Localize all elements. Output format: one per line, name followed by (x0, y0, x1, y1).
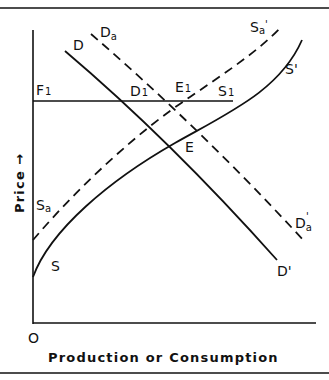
label-s: S (51, 258, 60, 274)
x-axis-title: Production or Consumption (48, 350, 279, 365)
supply-curve-sa (33, 26, 282, 240)
demand-curve-d (65, 51, 277, 260)
origin-label: O (28, 330, 39, 346)
demand-curve-da (91, 34, 306, 243)
label-da-prime: Da' (295, 211, 312, 233)
label-s1: S1 (218, 83, 234, 99)
label-d: D (73, 37, 84, 53)
supply-demand-diagram: D Da Sa' S' F1 D1 E1 S1 E Sa S Da' D' O … (0, 0, 329, 380)
label-d-prime: D' (277, 263, 292, 279)
label-f1: F1 (36, 82, 51, 98)
label-s-prime: S' (285, 61, 298, 77)
y-axis-title: Price→ (12, 153, 27, 213)
label-sa-prime: Sa' (250, 19, 268, 36)
label-da: Da (100, 24, 117, 42)
supply-curve-s (33, 40, 302, 277)
label-d1: D1 (130, 83, 148, 99)
label-e: E (185, 139, 194, 155)
label-e1: E1 (175, 79, 191, 95)
up-arrow-icon: → (12, 153, 27, 165)
label-sa: Sa (36, 197, 51, 214)
